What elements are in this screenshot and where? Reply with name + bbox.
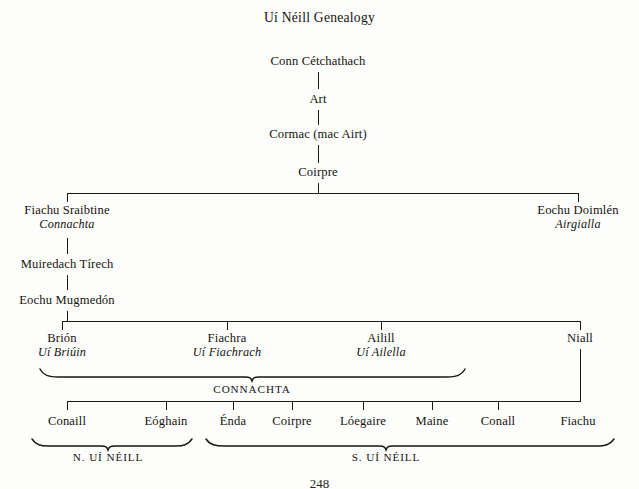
node-sept-ui-briuin: Uí Briúin (38, 346, 86, 360)
connector-niall-stem (580, 349, 581, 401)
connector-muiredach-to-eochu (67, 275, 68, 290)
node-fiachra: Fiachra Uí Fiachrach (193, 331, 261, 360)
connector-drop-maine (432, 401, 433, 410)
node-muiredach-tirech: Muiredach Tírech (21, 257, 114, 271)
node-label: Maine (416, 414, 449, 428)
page-title: Uí Néill Genealogy (0, 10, 639, 26)
group-label-connachta: CONNACHTA (213, 383, 290, 395)
connector-drop-ailill (381, 321, 382, 330)
node-ailill: Ailill Uí Ailella (356, 331, 406, 360)
connector-drop-loegaire (363, 401, 364, 410)
node-label: Ailill (367, 331, 395, 345)
node-label: Conaill (48, 414, 86, 428)
node-conaill: Conaill (48, 414, 86, 428)
connector-mugmedon-bus (62, 321, 581, 322)
node-label: Muiredach Tírech (21, 257, 114, 271)
page-number: 248 (0, 476, 639, 489)
connector-drop-eochu-doimlen (578, 193, 579, 202)
node-label: Niall (567, 331, 593, 345)
node-label: Eochu Mugmedón (19, 293, 115, 307)
node-maine: Maine (416, 414, 449, 428)
connector-drop-niall (580, 321, 581, 330)
node-conall: Conall (481, 414, 515, 428)
connector-drop-conall (498, 401, 499, 410)
connector-drop-coirpre-son (292, 401, 293, 410)
node-cormac-mac-airt: Cormac (mac Airt) (269, 127, 367, 141)
node-fiachu-sraibtine: Fiachu Sraibtine Connachta (24, 203, 109, 232)
node-label: Eóghain (144, 414, 187, 428)
connector-conn-to-art (318, 72, 319, 89)
connector-coirpre-bus (67, 193, 579, 194)
connector-drop-enda (233, 401, 234, 410)
node-loegaire: Lóegaire (340, 414, 386, 428)
group-label-s-ui-neill: S. UÍ NÉILL (352, 451, 421, 463)
node-label: Conn Cétchathach (270, 54, 365, 68)
node-niall: Niall (567, 331, 593, 345)
node-eochu-doimlen: Eochu Doimlén Airgialla (537, 203, 618, 232)
connector-art-to-cormac (318, 110, 319, 125)
node-label: Coirpre (272, 414, 312, 428)
connector-cormac-to-coirpre (318, 145, 319, 163)
node-sept-ui-fiachrach: Uí Fiachrach (193, 346, 261, 360)
node-brion: Brión Uí Briúin (38, 331, 86, 360)
node-conn-cetchathach: Conn Cétchathach (270, 54, 365, 68)
connector-drop-fiachu-sraibtine (67, 193, 68, 202)
node-label: Coirpre (298, 165, 338, 179)
connector-drop-conaill (67, 401, 68, 410)
node-label: Conall (481, 414, 515, 428)
node-enda: Énda (220, 414, 246, 428)
brace-connachta (0, 366, 639, 382)
node-label: Eochu Doimlén (537, 203, 618, 217)
connector-drop-fiachra (227, 321, 228, 330)
node-coirpre-son-of-niall: Coirpre (272, 414, 312, 428)
node-art: Art (309, 92, 326, 106)
connector-niall-bus (67, 401, 581, 402)
node-label: Cormac (mac Airt) (269, 127, 367, 141)
node-label: Brión (47, 331, 76, 345)
node-sept-connachta: Connachta (24, 218, 109, 232)
node-sept-airgialla: Airgialla (537, 218, 618, 232)
node-sept-ui-ailella: Uí Ailella (356, 346, 406, 360)
node-eochu-mugmedon: Eochu Mugmedón (19, 293, 115, 307)
connector-drop-eoghain (166, 401, 167, 410)
brace-southern-ui-neill (0, 436, 639, 452)
node-fiachu: Fiachu (560, 414, 595, 428)
node-label: Art (309, 92, 326, 106)
node-eoghain: Eóghain (144, 414, 187, 428)
connector-coirpre-stem (318, 183, 319, 193)
node-label: Lóegaire (340, 414, 386, 428)
node-label: Fiachu (560, 414, 595, 428)
genealogy-diagram: Uí Néill Genealogy Conn Cétchathach Art … (0, 0, 639, 489)
node-label: Fiachu Sraibtine (24, 203, 109, 217)
connector-fiachu-to-muiredach (67, 238, 68, 254)
group-label-n-ui-neill: N. UÍ NÉILL (73, 451, 143, 463)
connector-mugmedon-stem (67, 311, 68, 321)
node-label: Fiachra (208, 331, 247, 345)
node-label: Énda (220, 414, 246, 428)
connector-drop-brion (62, 321, 63, 330)
node-coirpre: Coirpre (298, 165, 338, 179)
